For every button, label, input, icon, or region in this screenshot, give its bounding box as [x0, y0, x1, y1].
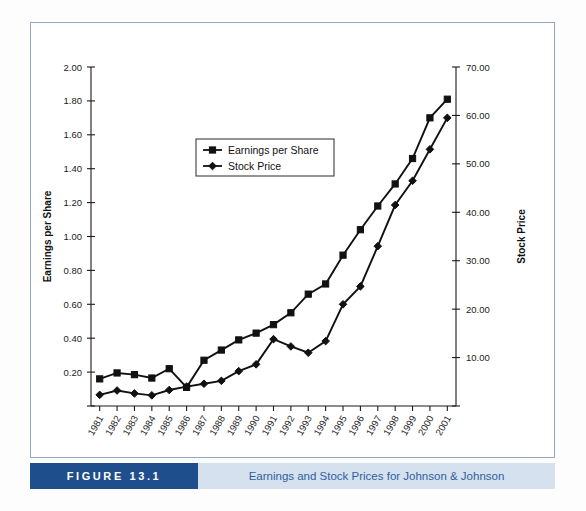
data-point-earnings-per-share — [444, 96, 450, 102]
y-axis-left-tick-label: 1.80 — [64, 95, 83, 106]
data-point-stock-price — [148, 392, 156, 400]
x-axis-tick-label: 1982 — [103, 414, 123, 438]
y-axis-left-tick-label: 1.40 — [64, 163, 83, 174]
data-point-earnings-per-share — [409, 155, 415, 161]
x-axis-tick-label: 1993 — [294, 414, 314, 438]
data-point-stock-price — [131, 390, 139, 398]
data-point-earnings-per-share — [323, 281, 329, 287]
chart-frame: 0.200.400.600.801.001.201.401.601.802.00… — [30, 22, 555, 458]
y-axis-left-tick-label: 0.80 — [64, 265, 83, 276]
data-point-stock-price — [287, 343, 295, 351]
y-axis-right-tick-label: 30.00 — [466, 255, 490, 266]
y-axis-left-tick-label: 1.20 — [64, 197, 83, 208]
data-point-earnings-per-share — [305, 291, 311, 297]
x-axis-tick-label: 1985 — [155, 414, 175, 438]
x-axis-tick-label: 1996 — [346, 414, 366, 438]
x-axis-tick-label: 1986 — [172, 414, 192, 438]
data-point-stock-price — [374, 242, 382, 250]
data-point-stock-price — [200, 380, 208, 388]
data-point-earnings-per-share — [427, 115, 433, 121]
data-point-stock-price — [113, 387, 121, 395]
x-axis-tick-label: 1989 — [224, 414, 244, 438]
x-axis-tick-label: 1984 — [137, 414, 157, 438]
data-point-earnings-per-share — [375, 203, 381, 209]
x-axis-tick-label: 1990 — [242, 414, 262, 438]
x-axis-tick-label: 1998 — [381, 414, 401, 438]
data-point-stock-price — [96, 391, 104, 399]
data-point-earnings-per-share — [218, 347, 224, 353]
x-axis-tick-label: 1991 — [259, 414, 279, 438]
data-point-earnings-per-share — [288, 310, 294, 316]
data-point-earnings-per-share — [166, 366, 172, 372]
y-axis-right-tick-label: 20.00 — [466, 304, 490, 315]
y-axis-left-tick-label: 0.60 — [64, 299, 83, 310]
x-axis-tick-label: 1983 — [120, 414, 140, 438]
legend-marker-square — [209, 147, 215, 153]
data-point-earnings-per-share — [392, 181, 398, 187]
data-point-earnings-per-share — [340, 252, 346, 258]
figure-number-tag: FIGURE 13.1 — [30, 463, 198, 489]
x-axis-tick-label: 2000 — [416, 414, 436, 438]
data-point-earnings-per-share — [131, 372, 137, 378]
chart-plot: 0.200.400.600.801.001.201.401.601.802.00… — [31, 23, 556, 459]
figure-caption-text: Earnings and Stock Prices for Johnson & … — [249, 470, 505, 482]
y-axis-left-tick-label: 0.20 — [64, 367, 83, 378]
x-axis-tick-label: 1987 — [190, 414, 210, 438]
y-axis-right-tick-label: 60.00 — [466, 110, 490, 121]
x-axis-tick-label: 1997 — [363, 414, 383, 438]
figure-caption-bar: FIGURE 13.1 Earnings and Stock Prices fo… — [30, 463, 555, 489]
y-axis-left-tick-label: 1.00 — [64, 231, 83, 242]
x-axis-tick-label: 1999 — [398, 414, 418, 438]
y-axis-right-tick-label: 70.00 — [466, 62, 490, 73]
y-axis-right-title: Stock Price — [516, 209, 527, 264]
x-axis-tick-label: 2001 — [433, 414, 453, 438]
data-point-stock-price — [218, 377, 226, 385]
data-point-earnings-per-share — [97, 376, 103, 382]
legend-label: Stock Price — [228, 160, 281, 172]
data-point-stock-price — [235, 367, 243, 375]
legend-label: Earnings per Share — [228, 144, 319, 156]
x-axis-tick-label: 1988 — [207, 414, 227, 438]
x-axis-tick-label: 1994 — [311, 414, 331, 438]
x-axis-tick-label: 1981 — [85, 414, 105, 438]
y-axis-right-tick-label: 10.00 — [466, 352, 490, 363]
data-point-stock-price — [426, 146, 434, 154]
data-point-earnings-per-share — [114, 370, 120, 376]
y-axis-right-tick-label: 40.00 — [466, 207, 490, 218]
y-axis-left-tick-label: 2.00 — [64, 62, 83, 73]
y-axis-left-tick-label: 0.40 — [64, 333, 83, 344]
data-point-earnings-per-share — [201, 357, 207, 363]
y-axis-right-tick-label: 50.00 — [466, 158, 490, 169]
y-axis-left-title: Earnings per Share — [42, 190, 53, 282]
figure-caption-wrap: Earnings and Stock Prices for Johnson & … — [198, 463, 555, 489]
y-axis-left-tick-label: 1.60 — [64, 129, 83, 140]
figure-container: 0.200.400.600.801.001.201.401.601.802.00… — [0, 0, 586, 511]
data-point-earnings-per-share — [149, 375, 155, 381]
data-point-stock-price — [165, 386, 173, 394]
data-point-earnings-per-share — [357, 227, 363, 233]
data-point-stock-price — [444, 114, 452, 122]
data-point-earnings-per-share — [236, 337, 242, 343]
data-point-earnings-per-share — [253, 330, 259, 336]
x-axis-tick-label: 1995 — [329, 414, 349, 438]
data-point-earnings-per-share — [270, 322, 276, 328]
x-axis-tick-label: 1992 — [277, 414, 297, 438]
